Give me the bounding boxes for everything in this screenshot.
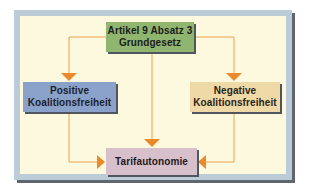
node-grundgesetz-line2: Grundgesetz	[119, 37, 181, 49]
node-negative-koalitionsfreiheit: Negative Koalitionsfreiheit	[190, 82, 280, 112]
node-positive-koalitionsfreiheit: Positive Koalitionsfreiheit	[23, 82, 116, 112]
node-negative-line1: Negative	[214, 85, 257, 97]
node-grundgesetz: Artikel 9 Absatz 3 Grundgesetz	[106, 22, 194, 52]
arrowhead-left-icon	[198, 155, 206, 169]
node-positive-line1: Positive	[50, 85, 89, 97]
connector-right-bottom	[205, 112, 234, 162]
node-positive-line2: Koalitionsfreiheit	[28, 97, 111, 109]
connector-top-left	[69, 37, 106, 74]
arrowhead-down-right-icon	[226, 73, 242, 81]
node-grundgesetz-line1: Artikel 9 Absatz 3	[108, 25, 193, 37]
arrowhead-right-icon	[97, 155, 105, 169]
connector-left-bottom	[69, 112, 98, 162]
connector-top-right	[194, 37, 234, 74]
arrowhead-down-center-icon	[144, 139, 160, 147]
node-negative-line2: Koalitionsfreiheit	[193, 97, 276, 109]
arrowhead-down-left-icon	[61, 73, 77, 81]
node-tarifautonomie: Tarifautonomie	[106, 148, 197, 175]
node-tarifautonomie-label: Tarifautonomie	[115, 156, 188, 168]
